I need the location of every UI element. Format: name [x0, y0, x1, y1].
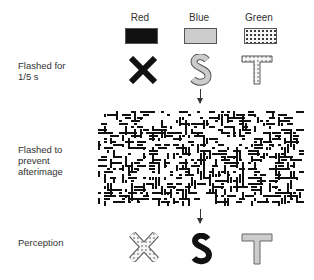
row-label-flashed: Flashed for 1/5 s [18, 60, 66, 82]
letter-x-red-icon [128, 56, 158, 84]
letter-s-black-icon [190, 233, 214, 265]
column-header-red: Red [110, 12, 170, 23]
label-line: 1/5 s [18, 71, 66, 82]
swatch-green [244, 28, 277, 44]
label-line: afterimage [18, 166, 63, 177]
noise-mask-pattern [98, 111, 304, 206]
arrow-down-icon [200, 89, 201, 103]
letter-t-gray-icon [240, 233, 274, 265]
label-line: Flashed to [18, 144, 63, 155]
column-header-green: Green [229, 12, 289, 23]
swatch-blue [184, 28, 217, 44]
row-label-perception: Perception [18, 237, 63, 248]
letter-s-blue-icon [189, 54, 213, 86]
letter-x-dotted-icon [128, 232, 160, 262]
label-line: Flashed for [18, 60, 66, 71]
label-line: prevent [18, 155, 63, 166]
row-label-mask: Flashed to prevent afterimage [18, 144, 63, 177]
arrow-down-icon [200, 209, 201, 223]
letter-t-green-icon [240, 55, 274, 85]
column-header-blue: Blue [169, 12, 229, 23]
swatch-red [125, 28, 158, 44]
